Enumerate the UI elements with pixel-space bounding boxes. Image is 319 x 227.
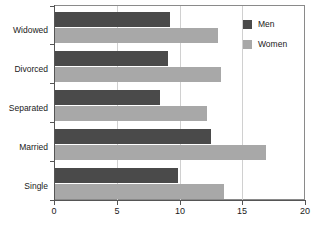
bar-widowed-men bbox=[55, 12, 170, 27]
legend-swatch-women-icon bbox=[243, 40, 252, 49]
bar-divorced-men bbox=[55, 51, 168, 66]
x-tick-15 bbox=[242, 201, 243, 205]
y-tick-4 bbox=[50, 161, 54, 162]
x-axis-label-20: 20 bbox=[293, 206, 317, 216]
y-tick-2 bbox=[50, 83, 54, 84]
legend-swatch-men-icon bbox=[243, 20, 252, 29]
legend-item-women: Women bbox=[243, 36, 287, 52]
bar-single-women bbox=[55, 184, 224, 199]
bar-married-women bbox=[55, 145, 266, 160]
category-label-widowed: Widowed bbox=[13, 26, 48, 35]
x-tick-0 bbox=[54, 201, 55, 205]
x-axis-label-10: 10 bbox=[168, 206, 192, 216]
category-label-married: Married bbox=[19, 143, 48, 152]
x-tick-5 bbox=[117, 201, 118, 205]
bar-separated-women bbox=[55, 106, 207, 121]
x-tick-10 bbox=[180, 201, 181, 205]
x-axis-label-5: 5 bbox=[105, 206, 129, 216]
bar-widowed-women bbox=[55, 28, 218, 43]
bar-married-men bbox=[55, 129, 211, 144]
bar-separated-men bbox=[55, 90, 160, 105]
category-label-single: Single bbox=[24, 182, 48, 191]
category-label-separated: Separated bbox=[9, 104, 48, 113]
bar-chart: Widowed Divorced Separated Married Singl… bbox=[0, 0, 319, 227]
y-tick-top bbox=[50, 6, 54, 7]
legend-item-men: Men bbox=[243, 16, 287, 32]
x-tick-20 bbox=[305, 201, 306, 205]
bar-divorced-women bbox=[55, 67, 221, 82]
x-axis-label-15: 15 bbox=[230, 206, 254, 216]
bar-single-men bbox=[55, 168, 178, 183]
legend: Men Women bbox=[243, 16, 287, 56]
x-axis-label-0: 0 bbox=[42, 206, 66, 216]
legend-label-women: Women bbox=[258, 40, 287, 49]
category-label-divorced: Divorced bbox=[14, 65, 48, 74]
legend-label-men: Men bbox=[258, 20, 275, 29]
y-tick-3 bbox=[50, 122, 54, 123]
y-tick-1 bbox=[50, 44, 54, 45]
